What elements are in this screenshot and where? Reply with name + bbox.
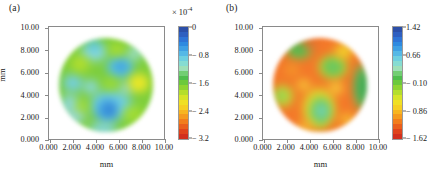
y-tick-label: 2.000 — [235, 113, 253, 122]
panel-a-colorbar: 0 − 0.8 − 1.6 − 2.4 − 3.2 — [178, 26, 216, 140]
colorbar-tick-mark — [403, 138, 406, 139]
colorbar-segment — [179, 134, 188, 139]
panel-a-disk — [59, 38, 153, 132]
colorbar-tick-mark — [403, 55, 406, 56]
exponent-base: × 10 — [172, 8, 187, 17]
colorbar-tick-mark — [189, 55, 192, 56]
x-tick-label: 8.000 — [132, 143, 150, 152]
panel-a-tag: (a) — [9, 3, 20, 13]
panel-a-plot-area — [48, 26, 165, 140]
y-tick-label: 4.000 — [21, 90, 39, 99]
panel-b: (b) 10.00 8.000 6.000 4.000 2.000 0.000 — [217, 0, 433, 187]
y-tick-label: 4.000 — [235, 90, 253, 99]
y-tick-label: 10.00 — [21, 23, 39, 32]
panel-a: (a) mm 10.00 8.000 6.000 4.000 2.000 0.0… — [0, 0, 216, 187]
x-tick-label: 0.000 — [39, 143, 57, 152]
colorbar-tick-mark — [189, 27, 192, 28]
x-tick-label: 6.000 — [323, 143, 341, 152]
colorbar-tick-mark — [403, 83, 406, 84]
panel-b-colorbar-ticks: 1.42 0.66 − 0.10 − 0.86 − 1.62 — [403, 26, 430, 140]
colorbar-tick-label: 0 — [192, 23, 196, 32]
colorbar-tick-label: − 3.2 — [192, 134, 209, 143]
colorbar-tick-label: − 1.6 — [192, 79, 209, 88]
colorbar-tick-mark — [403, 111, 406, 112]
panel-a-colorbar-ticks: 0 − 0.8 − 1.6 − 2.4 − 3.2 — [189, 26, 216, 140]
panel-a-colorbar-exponent: × 10-4 — [172, 6, 192, 17]
colorbar-tick-label: 1.42 — [406, 23, 420, 32]
x-tick-label: 8.000 — [346, 143, 364, 152]
panel-b-colorbar: 1.42 0.66 − 0.10 − 0.86 − 1.62 — [392, 26, 430, 140]
y-tick-label: 6.000 — [21, 68, 39, 77]
x-tick-label: 2.000 — [62, 143, 80, 152]
panel-b-heatmap — [263, 27, 378, 139]
y-tick-mark — [45, 140, 49, 141]
x-tick-label: 0.000 — [253, 143, 271, 152]
panel-b-colorbar-gradient — [392, 26, 403, 140]
y-tick-label: 0.000 — [21, 135, 39, 144]
panel-a-y-tick-labels: 10.00 8.000 6.000 4.000 2.000 0.000 — [0, 26, 44, 140]
panel-a-x-axis-title: mm — [48, 159, 165, 169]
x-tick-label: 4.000 — [300, 143, 318, 152]
colorbar-tick-label: − 0.10 — [406, 79, 427, 88]
colorbar-tick-label: 0.66 — [406, 51, 420, 60]
y-tick-label: 6.000 — [235, 68, 253, 77]
y-tick-label: 8.000 — [235, 45, 253, 54]
panel-b-plot-area — [262, 26, 379, 140]
x-tick-label: 2.000 — [276, 143, 294, 152]
panel-b-x-axis-title: mm — [262, 159, 379, 169]
panel-b-y-tick-labels: 10.00 8.000 6.000 4.000 2.000 0.000 — [217, 26, 258, 140]
y-tick-label: 10.00 — [235, 23, 253, 32]
panel-a-colorbar-gradient — [178, 26, 189, 140]
y-tick-mark — [259, 140, 263, 141]
colorbar-tick-label: − 0.86 — [406, 107, 427, 116]
colorbar-tick-label: − 1.62 — [406, 134, 427, 143]
colorbar-tick-mark — [403, 27, 406, 28]
colorbar-segment — [393, 134, 402, 139]
panel-a-x-tick-labels: 0.000 2.000 4.000 6.000 8.000 10.00 — [48, 143, 165, 155]
colorbar-tick-mark — [189, 111, 192, 112]
exponent-power: -4 — [187, 6, 192, 12]
y-tick-label: 0.000 — [235, 135, 253, 144]
y-tick-label: 2.000 — [21, 113, 39, 122]
x-tick-label: 6.000 — [109, 143, 127, 152]
figure-root: (a) mm 10.00 8.000 6.000 4.000 2.000 0.0… — [0, 0, 433, 187]
panel-a-heatmap — [49, 27, 164, 139]
panel-b-disk — [273, 38, 367, 132]
colorbar-tick-mark — [189, 138, 192, 139]
x-tick-label: 10.00 — [369, 143, 387, 152]
panel-b-x-tick-labels: 0.000 2.000 4.000 6.000 8.000 10.00 — [262, 143, 379, 155]
colorbar-tick-mark — [189, 83, 192, 84]
colorbar-tick-label: − 0.8 — [192, 51, 209, 60]
panel-b-tag: (b) — [226, 3, 238, 13]
colorbar-tick-label: − 2.4 — [192, 107, 209, 116]
x-tick-label: 4.000 — [86, 143, 104, 152]
y-tick-label: 8.000 — [21, 45, 39, 54]
x-tick-label: 10.00 — [155, 143, 173, 152]
